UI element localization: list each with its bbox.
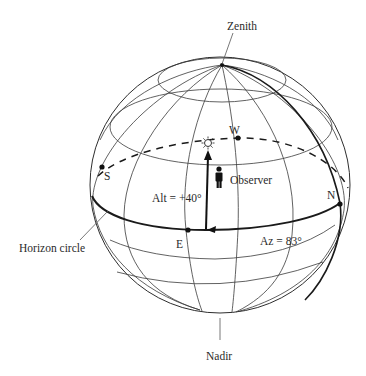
south-point: [99, 164, 104, 169]
west-point: [235, 135, 240, 140]
north-point: [337, 201, 342, 206]
east-label: E: [176, 238, 183, 250]
south-label: S: [104, 170, 110, 182]
west-label: W: [229, 124, 240, 136]
zenith-leader: [222, 33, 233, 64]
zenith-label: Zenith: [227, 20, 257, 32]
horizon-circle-back: [98, 138, 348, 188]
east-point: [185, 227, 190, 232]
altitude-arrow: [204, 150, 212, 229]
celestial-sphere-diagram: Zenith Nadir Horizon circle Observer Alt…: [0, 0, 366, 376]
altitude-circles: [110, 58, 335, 284]
observer-label: Observer: [230, 174, 272, 186]
altitude-label: Alt = +40°: [152, 192, 202, 204]
azimuth-label: Az = 83°: [260, 235, 302, 247]
sun-icon: [202, 137, 215, 150]
horizon-circle-front: [92, 196, 340, 230]
nadir-label: Nadir: [206, 350, 232, 362]
azimuth-arrowhead: [207, 226, 216, 233]
person-icon: [216, 166, 223, 188]
horizon-circle-label: Horizon circle: [19, 242, 85, 254]
north-label: N: [327, 189, 336, 201]
